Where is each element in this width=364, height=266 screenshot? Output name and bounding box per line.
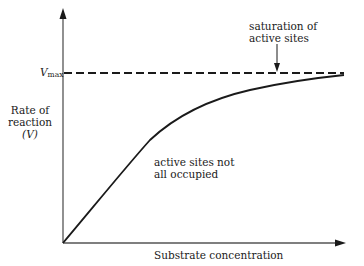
saturation-annotation-line1: saturation of xyxy=(249,20,318,32)
not-occupied-annotation-line2: all occupied xyxy=(154,168,218,180)
saturation-annotation-line2: active sites xyxy=(249,32,309,44)
y-axis xyxy=(60,8,67,243)
arrow-down-icon xyxy=(274,63,280,72)
x-axis-arrow-icon xyxy=(335,240,346,247)
y-axis-label-line3: (V) xyxy=(22,128,38,140)
x-axis-label: Substrate concentration xyxy=(154,249,284,261)
x-axis xyxy=(63,240,346,247)
saturation-arrow xyxy=(274,44,280,72)
vmax-label: Vmax xyxy=(40,66,64,79)
not-occupied-annotation-line1: active sites not xyxy=(154,156,235,168)
y-axis-label-line2: reaction xyxy=(8,116,52,128)
y-axis-label-line1: Rate of xyxy=(11,104,50,116)
michaelis-menten-diagram: Vmax Rate of reaction (V) Substrate conc… xyxy=(0,0,364,266)
y-axis-arrow-icon xyxy=(60,8,67,19)
